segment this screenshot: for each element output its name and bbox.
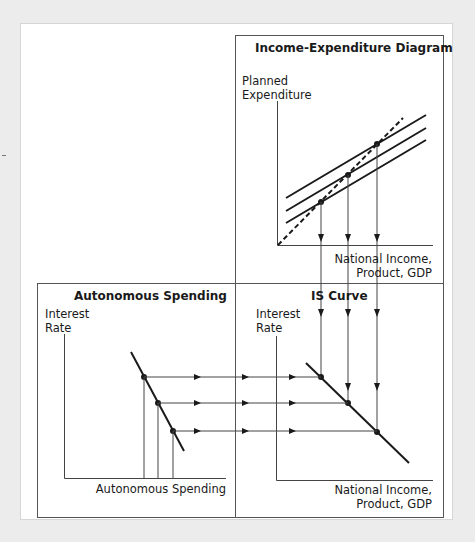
right-arrowheads <box>194 374 296 434</box>
as-interest-rate-label-2: Rate <box>45 321 71 335</box>
planned-expenditure-line-high <box>286 115 426 198</box>
is-curve-title: IS Curve <box>311 289 368 303</box>
income-expenditure-box <box>236 36 444 284</box>
is-interest-rate-label-1: Interest <box>256 307 300 321</box>
ie-x-axis-label-2: Product, GDP <box>356 266 432 280</box>
ie-x-axis-label-1: National Income, <box>334 252 432 266</box>
is-interest-rate-label-2: Rate <box>256 321 282 335</box>
income-expenditure-axes <box>278 101 434 246</box>
autonomous-drop-lines <box>144 377 173 478</box>
is-x-axis-label-2: Product, GDP <box>356 497 432 511</box>
vertical-guide-lines <box>321 144 377 432</box>
planned-expenditure-lines <box>286 115 426 223</box>
is-x-axis-label-1: National Income, <box>334 483 432 497</box>
as-interest-rate-label-1: Interest <box>45 307 89 321</box>
down-arrowheads-bottom <box>318 309 380 391</box>
planned-expenditure-label-1: Planned <box>242 74 288 88</box>
autonomous-spending-axes <box>65 334 227 479</box>
horizontal-guide-lines <box>144 377 377 431</box>
is-curve-axes <box>277 336 434 481</box>
planned-expenditure-line-mid <box>286 128 426 211</box>
planned-expenditure-line-low <box>286 140 426 223</box>
autonomous-spending-x-axis-label: Autonomous Spending <box>96 482 226 496</box>
autonomous-spending-title: Autonomous Spending <box>74 289 227 303</box>
forty-five-degree-line <box>278 118 403 245</box>
down-arrowheads-top <box>318 234 380 242</box>
income-expenditure-title: Income-Expenditure Diagram <box>255 41 453 55</box>
planned-expenditure-label-2: Expenditure <box>242 88 312 102</box>
